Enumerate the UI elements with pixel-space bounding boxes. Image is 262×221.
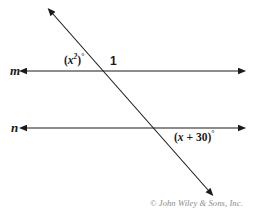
line-m-label: m [10,64,20,77]
degree-symbol: ° [211,129,214,138]
degree-symbol: ° [81,52,84,61]
angle-label-x-squared: (x2)° [64,55,84,67]
angle-label-x-plus-30: (x + 30)° [174,132,214,144]
transversal-line [53,14,208,190]
geometry-diagram-svg [0,0,262,221]
angle-label-1: 1 [110,55,117,67]
geometry-figure: m n (x2)° 1 (x + 30)° © John Wiley & Son… [0,0,262,221]
plus-operator: + [184,131,196,143]
constant-30: 30 [196,131,208,143]
copyright-notice: © John Wiley & Sons, Inc. [150,199,243,208]
line-n-label: n [11,121,18,134]
